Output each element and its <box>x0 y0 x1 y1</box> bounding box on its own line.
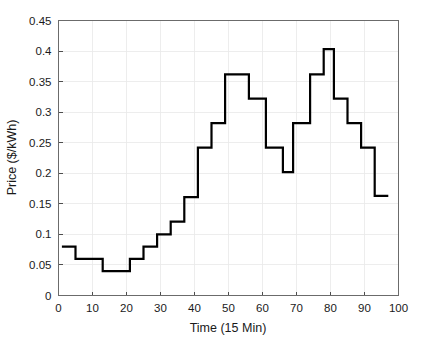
tick-label-x: 0 <box>55 302 61 314</box>
tick-label-x: 90 <box>358 302 371 314</box>
tick-label-x: 50 <box>222 302 235 314</box>
tick-label-y: 0.3 <box>36 106 52 118</box>
tick-label-x: 80 <box>324 302 337 314</box>
tick-label-x: 60 <box>256 302 269 314</box>
tick-label-y: 0.25 <box>29 137 51 149</box>
tick-label-x: 30 <box>154 302 167 314</box>
tick-label-y: 0.15 <box>29 198 51 210</box>
x-axis-title: Time (15 Min) <box>190 321 267 335</box>
price-time-line-chart: 00.050.10.150.20.250.30.350.40.45 010203… <box>0 0 422 342</box>
tick-label-x: 70 <box>290 302 303 314</box>
tick-label-y: 0.05 <box>29 259 51 271</box>
tick-label-y: 0 <box>45 290 51 302</box>
tick-label-x: 40 <box>188 302 201 314</box>
tick-label-y: 0.45 <box>29 15 51 27</box>
tick-label-x: 100 <box>389 302 408 314</box>
tick-label-y: 0.35 <box>29 76 51 88</box>
tick-label-x: 20 <box>120 302 133 314</box>
chart-figure: 00.050.10.150.20.250.30.350.40.45 010203… <box>0 0 422 342</box>
tick-label-y: 0.1 <box>36 228 52 240</box>
tick-label-y: 0.4 <box>36 45 53 57</box>
y-axis-title: Price ($/kWh) <box>5 120 19 196</box>
tick-label-y: 0.2 <box>36 167 52 179</box>
tick-label-x: 10 <box>86 302 99 314</box>
